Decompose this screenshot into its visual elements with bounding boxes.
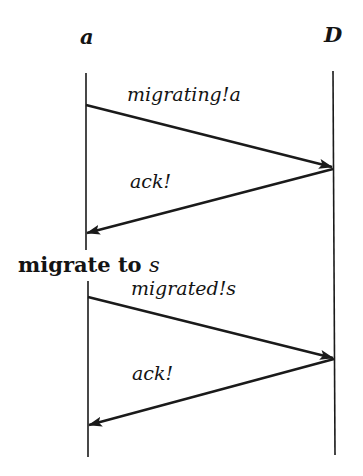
event-label-variable: s [149,253,160,277]
message-label-3: migrated!s [131,279,236,298]
participant-label-a: a [80,26,94,47]
lifeline-D [333,71,335,455]
message-label-2: ack! [130,172,171,191]
sequence-diagram: a D migrating!a ack! migrated!s ack! mig… [0,0,363,476]
diagram-canvas [0,0,363,476]
participant-label-D: D [324,24,342,45]
message-label-4: ack! [132,364,173,383]
event-label-text: migrate to [18,252,142,277]
message-arrow-3 [88,297,333,358]
message-label-1: migrating!a [127,85,241,104]
message-arrow-4 [89,359,334,425]
message-arrow-1 [86,105,332,167]
event-label-migrate: migrate to s [18,254,160,276]
message-arrow-2 [87,169,333,233]
